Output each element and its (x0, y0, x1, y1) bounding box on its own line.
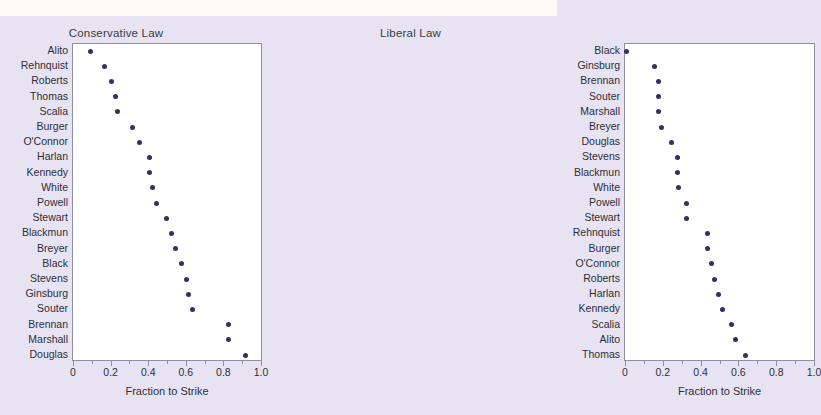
data-point (130, 125, 135, 130)
data-point (102, 64, 107, 69)
x-tick-label: 0.2 (655, 366, 670, 378)
x-tick-minor (242, 361, 243, 364)
category-label: Alito (600, 333, 620, 344)
data-point (733, 337, 738, 342)
category-label: Roberts (583, 273, 620, 284)
category-label: Stevens (30, 273, 68, 284)
data-point (656, 79, 661, 84)
data-point (720, 307, 725, 312)
category-label: Thomas (582, 349, 620, 360)
data-point (179, 261, 184, 266)
category-label: Stewart (32, 212, 68, 223)
data-point (676, 185, 681, 190)
data-point (705, 231, 710, 236)
x-tick-minor (644, 361, 645, 364)
category-label: Douglas (581, 136, 620, 147)
category-labels-conservative: AlitoRehnquistRobertsThomasScaliaBurgerO… (0, 43, 68, 361)
category-label: Harlan (589, 288, 620, 299)
x-tick-label: 1.0 (254, 366, 269, 378)
category-label: Souter (37, 303, 68, 314)
data-point (669, 140, 674, 145)
data-point (243, 353, 248, 358)
x-tick-minor (205, 361, 206, 364)
x-tick-minor (795, 361, 796, 364)
category-label: Blackmun (22, 227, 68, 238)
category-label: Ginsburg (25, 288, 68, 299)
data-point (652, 64, 657, 69)
category-label: Breyer (37, 242, 68, 253)
x-tick-minor (757, 361, 758, 364)
panel-title-liberal: Liberal Law (272, 27, 549, 39)
category-label: Stewart (584, 212, 620, 223)
category-label: Ginsburg (577, 60, 620, 71)
data-point (675, 170, 680, 175)
category-label: Alito (48, 45, 68, 56)
category-label: Marshall (580, 105, 620, 116)
category-label: Stevens (582, 151, 620, 162)
category-label: Roberts (31, 75, 68, 86)
data-point (709, 261, 714, 266)
data-point (154, 201, 159, 206)
data-point (137, 140, 142, 145)
data-point (729, 322, 734, 327)
category-label: Brennan (28, 318, 68, 329)
category-label: Blackmun (574, 166, 620, 177)
category-labels-liberal: BlackGinsburgBrennanSouterMarshallBreyer… (556, 43, 620, 361)
x-tick-label: 0 (622, 366, 628, 378)
category-label: Harlan (37, 151, 68, 162)
x-axis-tick-labels-conservative: 00.20.40.60.81.0 (72, 366, 262, 380)
data-point (109, 79, 114, 84)
data-point (147, 155, 152, 160)
x-tick-label: 1.0 (807, 366, 821, 378)
data-point (186, 292, 191, 297)
category-label: Scalia (39, 105, 68, 116)
data-point (684, 201, 689, 206)
x-tick-label: 0.4 (141, 366, 156, 378)
x-tick-label: 0.6 (178, 366, 193, 378)
category-label: Black (42, 257, 68, 268)
data-point (88, 49, 93, 54)
data-point (164, 216, 169, 221)
x-axis-title-liberal: Fraction to Strike (624, 385, 815, 397)
category-label: Powell (37, 197, 68, 208)
x-tick-label: 0.6 (731, 366, 746, 378)
data-point (716, 292, 721, 297)
data-point (705, 246, 710, 251)
data-point (190, 307, 195, 312)
x-tick-label: 0.2 (103, 366, 118, 378)
data-point (656, 94, 661, 99)
data-point (743, 353, 748, 358)
category-label: Douglas (29, 349, 68, 360)
data-point (184, 277, 189, 282)
category-label: Burger (588, 242, 620, 253)
data-point (115, 109, 120, 114)
panel-title-conservative: Conservative Law (0, 27, 256, 39)
data-point (675, 155, 680, 160)
category-label: Thomas (30, 90, 68, 101)
x-tick-minor (720, 361, 721, 364)
data-point (656, 109, 661, 114)
data-point (150, 185, 155, 190)
x-tick-label: 0 (70, 366, 76, 378)
category-label: Brennan (580, 75, 620, 86)
category-label: O'Connor (575, 257, 620, 268)
data-point (113, 94, 118, 99)
category-label: O'Connor (23, 136, 68, 147)
plot-area-liberal (624, 43, 815, 361)
data-point (659, 125, 664, 130)
x-axis-title-conservative: Fraction to Strike (72, 385, 262, 397)
category-label: White (41, 181, 68, 192)
x-tick-minor (682, 361, 683, 364)
category-label: Rehnquist (21, 60, 68, 71)
x-tick-minor (92, 361, 93, 364)
x-tick-minor (129, 361, 130, 364)
category-label: Powell (589, 197, 620, 208)
category-label: Scalia (591, 318, 620, 329)
plot-area-conservative (72, 43, 262, 361)
data-point (173, 246, 178, 251)
x-axis-tick-labels-liberal: 00.20.40.60.81.0 (624, 366, 815, 380)
category-label: Souter (589, 90, 620, 101)
panel-liberal-law: Liberal Law BlackGinsburgBrennanSouterMa… (280, 0, 557, 415)
data-point (624, 49, 629, 54)
